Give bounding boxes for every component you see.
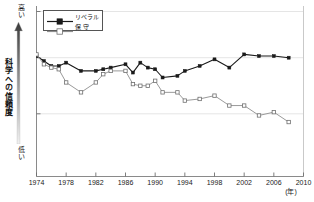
data-point <box>213 94 216 97</box>
data-point <box>198 97 201 100</box>
data-point <box>258 55 261 58</box>
data-point <box>176 74 179 77</box>
data-point <box>183 99 186 102</box>
y-axis-annotation: 高い 科学への信頼度 低い <box>0 0 34 186</box>
data-point <box>36 53 38 56</box>
data-point <box>131 71 134 74</box>
plot-area <box>36 6 304 177</box>
plot-frame <box>37 6 304 177</box>
y-axis-title: 科学への信頼度 <box>1 58 12 117</box>
x-tick-label: 2010 <box>287 179 314 187</box>
data-point <box>243 53 246 56</box>
legend-item-conservative: 保 守 <box>44 22 102 31</box>
y-axis-low-label: 低い <box>11 146 25 160</box>
data-point <box>124 69 127 72</box>
data-series-layer <box>36 53 290 124</box>
legend-swatch-filled-square-icon <box>47 12 73 21</box>
data-point <box>139 61 142 64</box>
data-point <box>64 81 67 84</box>
y-axis-ticks <box>37 12 41 114</box>
legend: リベラル 保 守 <box>43 10 103 31</box>
data-point <box>146 84 149 87</box>
data-point <box>109 66 112 69</box>
data-point <box>272 55 275 58</box>
data-point <box>94 69 97 72</box>
legend-swatch-open-square-icon <box>47 22 73 31</box>
y-axis-gradient-arrow-icon <box>14 22 23 144</box>
data-point <box>242 104 245 107</box>
data-point <box>146 66 149 69</box>
data-point <box>94 81 97 84</box>
x-axis-unit-label: (年) <box>274 188 308 196</box>
legend-label-liberal: リベラル <box>75 13 99 21</box>
science-trust-line-chart: 高い 科学への信頼度 低い <box>0 0 313 202</box>
data-point <box>139 84 142 87</box>
data-point <box>102 73 105 76</box>
data-point <box>257 114 260 117</box>
series-liberal <box>36 53 290 79</box>
data-point <box>183 69 186 72</box>
data-point <box>228 104 231 107</box>
data-point <box>131 82 134 85</box>
data-point <box>213 58 216 61</box>
data-point <box>109 69 112 72</box>
data-point <box>57 68 60 71</box>
data-point <box>287 56 290 59</box>
data-point <box>80 69 83 72</box>
data-point <box>65 61 68 64</box>
data-point <box>124 63 127 66</box>
data-point <box>161 91 164 94</box>
data-point <box>57 64 60 67</box>
data-point <box>42 60 45 63</box>
data-point <box>272 110 275 113</box>
data-point <box>228 66 231 69</box>
data-point <box>176 91 179 94</box>
data-point <box>287 120 290 123</box>
x-axis-ticks <box>37 173 304 177</box>
legend-label-conservative: 保 守 <box>75 23 89 31</box>
data-point <box>153 79 156 82</box>
series-conservative <box>36 53 290 124</box>
series-line <box>37 54 289 122</box>
x-axis-tick-labels: 1974197819821986199019941998200220062010 <box>0 179 313 191</box>
data-point <box>161 76 164 79</box>
data-point <box>79 91 82 94</box>
data-point <box>154 68 157 71</box>
data-point <box>198 64 201 67</box>
data-point <box>50 66 53 69</box>
data-point <box>102 68 105 71</box>
y-axis-high-label: 高い <box>11 4 25 18</box>
data-point <box>42 63 45 66</box>
legend-item-liberal: リベラル <box>44 12 102 21</box>
